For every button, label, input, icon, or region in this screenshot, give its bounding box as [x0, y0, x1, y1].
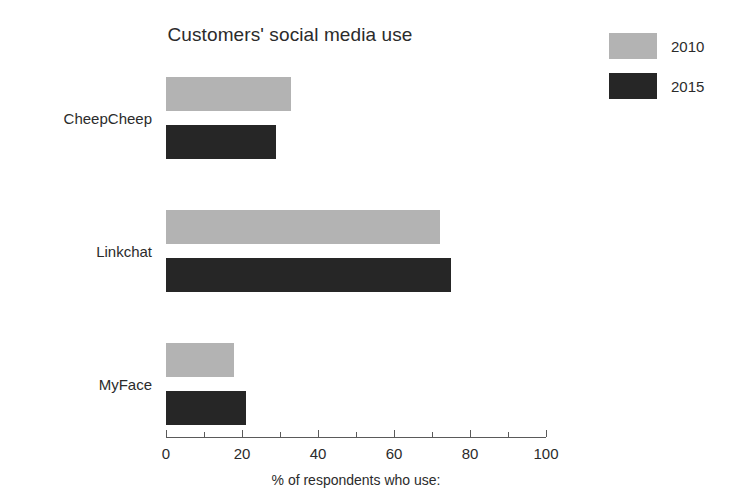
x-tick-minor-70 [432, 432, 433, 437]
chart-figure: Customers' social media use 2010 2015 Ch… [0, 0, 751, 504]
x-tick-label-60: 60 [386, 445, 403, 462]
x-tick-major-80 [470, 430, 471, 437]
bar-linkchat-2010 [166, 210, 440, 244]
x-tick-minor-90 [508, 432, 509, 437]
bar-myface-2015 [166, 391, 246, 425]
x-tick-minor-50 [356, 432, 357, 437]
bar-myface-2010 [166, 343, 234, 377]
category-label-linkchat: Linkchat [2, 243, 152, 260]
bar-cheepcheep-2010 [166, 77, 291, 111]
bar-linkchat-2015 [166, 258, 451, 292]
x-tick-label-0: 0 [162, 445, 170, 462]
x-tick-label-100: 100 [533, 445, 558, 462]
x-tick-label-40: 40 [310, 445, 327, 462]
category-label-cheepcheep: CheepCheep [2, 110, 152, 127]
x-tick-label-80: 80 [462, 445, 479, 462]
x-tick-major-40 [318, 430, 319, 437]
plot-area: CheepCheepLinkchatMyFace020406080100 [0, 0, 751, 504]
category-label-myface: MyFace [2, 376, 152, 393]
x-tick-major-0 [166, 430, 167, 437]
x-axis-title: % of respondents who use: [166, 472, 546, 488]
bar-cheepcheep-2015 [166, 125, 276, 159]
x-axis-line [166, 437, 546, 438]
x-tick-major-60 [394, 430, 395, 437]
x-tick-minor-30 [280, 432, 281, 437]
x-tick-minor-10 [204, 432, 205, 437]
x-tick-major-20 [242, 430, 243, 437]
x-tick-label-20: 20 [234, 445, 251, 462]
x-tick-major-100 [546, 430, 547, 437]
